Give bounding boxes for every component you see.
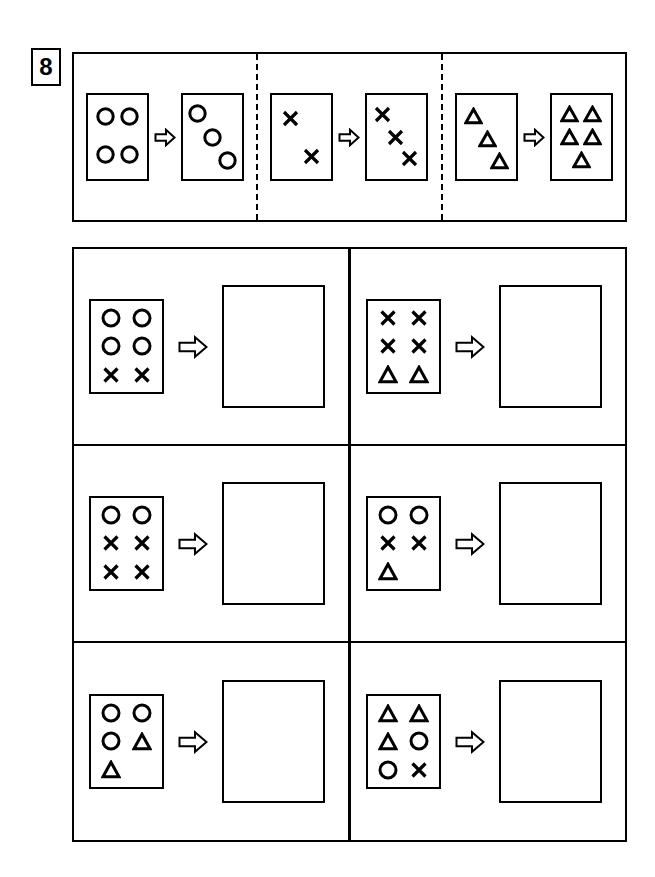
example-2-output-card — [365, 93, 428, 181]
example-pair-2 — [270, 93, 428, 181]
cross-icon — [400, 149, 419, 168]
triangle-icon — [478, 130, 497, 148]
question-4-input-card — [366, 496, 441, 591]
circle-icon — [409, 505, 429, 525]
cross-icon — [132, 562, 152, 582]
question-6-answer-box[interactable] — [499, 680, 602, 803]
right-arrow-icon — [455, 730, 485, 754]
circle-icon — [218, 151, 237, 170]
circle-icon — [101, 505, 121, 525]
example-pair-3 — [455, 93, 613, 181]
cross-icon — [409, 308, 429, 328]
question-cell-3 — [74, 446, 350, 643]
right-arrow-icon — [338, 128, 360, 147]
triangle-icon — [560, 128, 579, 146]
question-1-input-card — [89, 299, 164, 394]
circle-icon — [96, 107, 115, 126]
cross-icon — [373, 105, 392, 124]
triangle-icon — [583, 105, 602, 123]
cross-icon — [302, 147, 321, 166]
example-cell-3 — [441, 54, 625, 220]
triangle-icon — [583, 128, 602, 146]
question-3-shape-grid — [91, 498, 162, 589]
example-cell-2 — [256, 54, 440, 220]
right-arrow-icon — [178, 532, 208, 556]
triangle-icon — [132, 732, 152, 751]
exercise-number-badge: 8 — [31, 48, 61, 86]
circle-icon — [132, 308, 152, 328]
question-5-input-card — [89, 694, 164, 789]
cross-icon — [132, 365, 152, 385]
cross-icon — [101, 562, 121, 582]
example-3-input-card — [455, 93, 518, 181]
circle-icon — [378, 505, 398, 525]
right-arrow-icon — [178, 730, 208, 754]
example-strip — [72, 52, 627, 222]
cross-icon — [378, 533, 398, 553]
cross-icon — [101, 533, 121, 553]
triangle-icon — [378, 732, 398, 751]
circle-icon — [132, 703, 152, 723]
circle-icon — [101, 308, 121, 328]
cross-icon — [378, 308, 398, 328]
cross-icon — [386, 128, 405, 147]
question-2-answer-box[interactable] — [499, 285, 602, 408]
example-cell-1 — [74, 54, 256, 220]
triangle-icon — [378, 365, 398, 384]
question-cell-1 — [74, 249, 350, 446]
right-arrow-icon — [154, 128, 176, 147]
triangle-icon — [572, 151, 591, 169]
question-cell-4 — [349, 446, 626, 643]
worksheet-page: 8 — [0, 0, 655, 877]
question-2-input-card — [366, 299, 441, 394]
question-3-input-card — [89, 496, 164, 591]
question-2-shape-grid — [368, 301, 439, 392]
cross-icon — [132, 533, 152, 553]
question-1-shape-grid — [91, 301, 162, 392]
circle-icon — [120, 107, 139, 126]
right-arrow-icon — [523, 128, 545, 147]
triangle-icon — [490, 152, 509, 170]
cross-icon — [378, 336, 398, 356]
triangle-icon — [464, 107, 483, 125]
circle-icon — [203, 128, 222, 147]
question-cell-6 — [349, 643, 626, 840]
right-arrow-icon — [455, 335, 485, 359]
question-cell-5 — [74, 643, 350, 840]
circle-icon — [188, 104, 207, 123]
question-3-answer-box[interactable] — [222, 482, 325, 605]
circle-icon — [101, 731, 121, 751]
right-arrow-icon — [455, 532, 485, 556]
question-5-answer-box[interactable] — [222, 680, 325, 803]
triangle-icon — [560, 105, 579, 123]
triangle-icon — [409, 365, 429, 384]
circle-icon — [132, 505, 152, 525]
circle-icon — [378, 760, 398, 780]
circle-icon — [96, 145, 115, 164]
circle-icon — [101, 703, 121, 723]
question-1-answer-box[interactable] — [222, 285, 325, 408]
right-arrow-icon — [178, 335, 208, 359]
question-grid — [72, 247, 627, 842]
example-3-output-card — [550, 93, 613, 181]
circle-icon — [101, 336, 121, 356]
circle-icon — [132, 336, 152, 356]
circle-icon — [120, 145, 139, 164]
example-2-input-card — [270, 93, 333, 181]
cross-icon — [409, 760, 429, 780]
triangle-icon — [378, 704, 398, 723]
cross-icon — [281, 109, 300, 128]
cross-icon — [409, 336, 429, 356]
triangle-icon — [101, 760, 121, 779]
cross-icon — [101, 365, 121, 385]
question-cell-2 — [349, 249, 626, 446]
cross-icon — [409, 533, 429, 553]
triangle-icon — [378, 562, 398, 581]
question-5-shape-grid — [91, 696, 162, 787]
example-1-input-card — [86, 93, 149, 181]
circle-icon — [409, 731, 429, 751]
triangle-icon — [409, 704, 429, 723]
question-4-answer-box[interactable] — [499, 482, 602, 605]
question-6-input-card — [366, 694, 441, 789]
example-pair-1 — [86, 93, 244, 181]
